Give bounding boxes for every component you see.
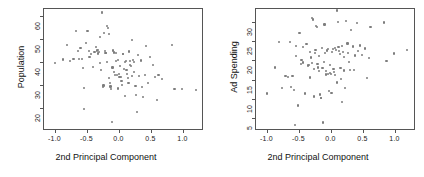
data-point: [281, 87, 283, 89]
data-point: [289, 41, 291, 43]
data-point: [66, 44, 68, 46]
data-point: [331, 51, 333, 53]
data-point: [95, 46, 97, 48]
y-tick-label: 5: [246, 118, 253, 138]
data-point: [337, 21, 339, 23]
data-point: [357, 50, 359, 52]
y-tick-label: 60: [34, 16, 41, 36]
data-point: [302, 46, 304, 48]
data-point: [85, 42, 87, 44]
data-point: [113, 71, 115, 73]
data-point: [88, 50, 90, 52]
data-point: [311, 62, 313, 64]
x-tick-label: 0.0: [113, 135, 123, 142]
data-point: [350, 29, 352, 31]
y-tick-label: 50: [34, 39, 41, 59]
x-tick-mark: [331, 130, 332, 133]
data-point: [343, 56, 345, 58]
data-point: [329, 64, 331, 66]
data-point: [314, 49, 316, 51]
data-point: [133, 71, 135, 73]
data-point: [111, 121, 113, 123]
data-point: [119, 65, 121, 67]
data-point: [321, 67, 323, 69]
data-point: [103, 32, 105, 34]
data-point: [295, 45, 297, 47]
x-tick-mark: [119, 130, 120, 133]
data-point: [324, 52, 326, 54]
data-point: [319, 93, 321, 95]
data-point: [92, 66, 94, 68]
y-tick-label: 25: [246, 41, 253, 61]
data-point: [110, 88, 112, 90]
x-tick-label: 1.0: [177, 135, 187, 142]
data-point: [290, 86, 292, 88]
data-point: [138, 75, 140, 77]
data-point: [144, 74, 146, 76]
data-point: [369, 26, 371, 28]
data-point: [346, 42, 348, 44]
data-point: [336, 9, 338, 11]
y-axis-title-right: Ad Spending: [229, 17, 239, 117]
data-point: [323, 23, 325, 25]
x-tick-mark: [87, 130, 88, 133]
data-point: [83, 87, 85, 89]
data-point: [316, 63, 318, 65]
data-point: [129, 60, 131, 62]
data-point: [125, 60, 127, 62]
data-point: [278, 41, 280, 43]
plot-area-population: [44, 9, 202, 129]
data-point: [120, 76, 122, 78]
x-tick-label: -1.0: [260, 135, 273, 142]
x-tick-label: 0.5: [145, 135, 155, 142]
data-point: [339, 67, 341, 69]
data-point: [134, 85, 136, 87]
data-point: [133, 61, 135, 63]
data-point: [322, 121, 324, 123]
data-point: [109, 82, 111, 84]
data-point: [344, 87, 346, 89]
data-point: [318, 70, 320, 72]
data-point: [342, 51, 344, 53]
panel-ad-spending: -1.0-0.50.00.51.051015202530 2nd Princip…: [212, 0, 424, 177]
data-point: [181, 88, 183, 90]
y-tick-label: 30: [34, 85, 41, 105]
data-point: [361, 54, 363, 56]
x-tick-label: 0.5: [357, 135, 367, 142]
data-point: [171, 44, 173, 46]
data-point: [300, 63, 302, 65]
data-point: [137, 54, 139, 56]
y-tick-label: 15: [246, 80, 253, 100]
data-point: [295, 55, 297, 57]
data-point: [325, 70, 327, 72]
data-point: [340, 78, 342, 80]
data-point: [366, 77, 368, 79]
data-point: [145, 45, 147, 47]
data-point: [330, 73, 332, 75]
x-axis-title-left: 2nd Principal Component: [0, 152, 212, 162]
data-point: [101, 11, 103, 13]
y-tick-label: 10: [246, 99, 253, 119]
data-point: [330, 92, 332, 94]
x-tick-mark: [55, 130, 56, 133]
data-point: [117, 87, 119, 89]
data-point: [274, 66, 276, 68]
data-point: [348, 61, 350, 63]
data-point: [294, 124, 296, 126]
data-point: [305, 43, 307, 45]
data-point: [157, 74, 159, 76]
data-point: [335, 49, 337, 51]
data-point: [149, 56, 151, 58]
data-point: [339, 53, 341, 55]
y-tick-label: 30: [246, 22, 253, 42]
x-tick-mark: [363, 130, 364, 133]
data-point: [83, 108, 85, 110]
x-tick-mark: [267, 130, 268, 133]
data-point: [156, 99, 158, 101]
x-tick-mark: [395, 130, 396, 133]
data-point: [406, 49, 408, 51]
data-point: [323, 61, 325, 63]
data-point: [154, 76, 156, 78]
data-point: [333, 71, 335, 73]
data-point: [131, 39, 133, 41]
